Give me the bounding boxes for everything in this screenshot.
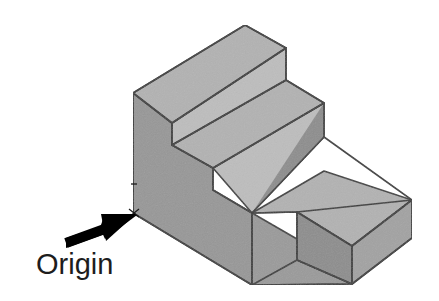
origin-label: Origin <box>36 249 113 279</box>
